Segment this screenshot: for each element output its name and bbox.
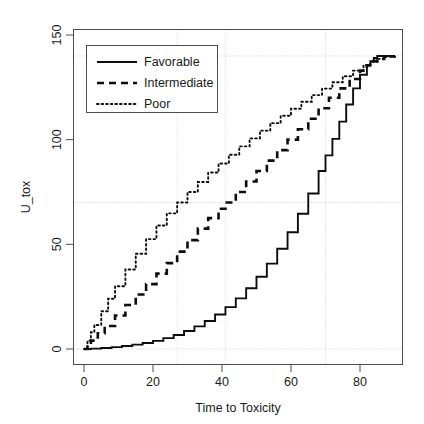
x-tick-label: 0 [81,375,88,389]
y-axis: 050100150 [50,25,74,353]
x-tick-label: 20 [146,375,160,389]
chart-figure: 050100150 020406080 U_tox Time to Toxici… [0,0,424,424]
x-tick-label: 40 [215,375,229,389]
plot-canvas: 050100150 020406080 U_tox Time to Toxici… [0,0,424,424]
x-tick-label: 80 [353,375,367,389]
y-axis-title: U_tox [19,180,33,213]
legend[interactable]: FavorableIntermediatePoor [87,46,218,113]
y-tick-label: 100 [50,129,64,150]
x-axis: 020406080 [81,365,367,390]
legend-label-favorable: Favorable [144,55,200,69]
legend-label-intermediate: Intermediate [144,76,214,90]
x-axis-title: Time to Toxicity [195,401,281,415]
y-tick-label: 50 [50,237,64,251]
y-tick-label: 0 [50,345,64,352]
legend-label-poor: Poor [144,97,170,111]
x-tick-label: 60 [284,375,298,389]
y-tick-label: 150 [50,25,64,46]
